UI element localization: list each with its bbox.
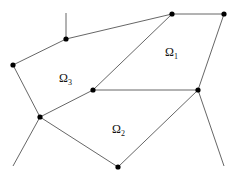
edges: [13, 13, 224, 167]
domain-partition-diagram: Ω1 Ω3 Ω2: [0, 0, 235, 179]
node-b: [10, 62, 15, 67]
edge-g-e: [40, 90, 93, 117]
node-a: [63, 36, 68, 41]
node-h: [115, 164, 120, 169]
edge-h-f: [118, 90, 198, 167]
region-label-omega1: Ω1: [165, 45, 178, 61]
edge-b-a: [13, 39, 66, 65]
node-g: [37, 114, 42, 119]
region-label-omega3: Ω3: [59, 71, 72, 87]
node-c: [169, 11, 174, 16]
edge-c-e: [93, 14, 172, 90]
edge-a-c: [66, 14, 172, 39]
edge-g-h: [40, 117, 118, 167]
edge-f-bottom-right-stub: [198, 90, 224, 166]
nodes: [10, 11, 226, 169]
region-label-omega2: Ω2: [112, 122, 125, 138]
edge-b-g: [13, 65, 40, 117]
node-e: [90, 87, 95, 92]
node-f: [195, 87, 200, 92]
edge-g-bottom-left-stub: [13, 117, 40, 166]
node-d: [221, 11, 226, 16]
edge-d-f: [198, 14, 224, 90]
